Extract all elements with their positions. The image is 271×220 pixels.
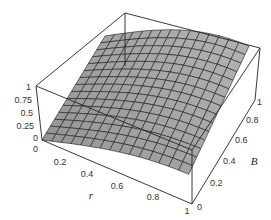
y-tick-0.4: 0.4	[223, 156, 236, 166]
z-tick-0: 0	[33, 133, 38, 143]
x-tick-1: 1	[184, 206, 189, 216]
x-tick-0: 0	[33, 144, 38, 154]
y-tick-0.6: 0.6	[235, 135, 248, 145]
x-tick-0.4: 0.4	[81, 169, 94, 179]
y-axis-label: B	[251, 155, 258, 167]
y-tick-1: 1	[257, 97, 262, 107]
z-tick-0.25: 0.25	[16, 121, 34, 131]
surface-plot: 1 0.75 0.5 0.25 0 0 0.2 0.4 0.6 0.8 1 r …	[0, 0, 271, 220]
x-tick-0.6: 0.6	[111, 181, 124, 191]
z-tick-0.75: 0.75	[14, 95, 32, 105]
z-tick-0.5: 0.5	[20, 108, 33, 118]
y-tick-0: 0	[197, 202, 202, 212]
x-tick-0.8: 0.8	[147, 192, 160, 202]
z-tick-1: 1	[26, 82, 31, 92]
y-tick-0.8: 0.8	[246, 115, 259, 125]
surface-mesh	[42, 30, 249, 175]
y-tick-0.2: 0.2	[210, 178, 223, 188]
x-tick-0.2: 0.2	[54, 157, 67, 167]
x-axis-label: r	[89, 189, 94, 201]
